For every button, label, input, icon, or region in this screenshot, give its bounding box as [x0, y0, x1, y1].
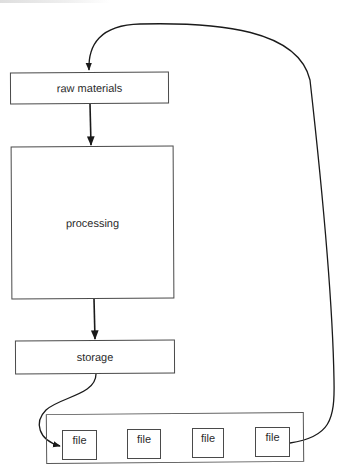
file-box: file [192, 428, 224, 458]
processing-label: processing [66, 216, 119, 228]
storage-box: storage [15, 340, 175, 375]
storage-label: storage [77, 351, 114, 363]
file-label: file [265, 431, 279, 443]
edge-raw-to-processing [90, 104, 91, 145]
file-box: file [127, 429, 161, 459]
file-box: file [62, 430, 97, 460]
raw-materials-box: raw materials [10, 72, 169, 105]
processing-box: processing [11, 146, 175, 300]
file-label: file [137, 433, 151, 445]
raw-materials-label: raw materials [57, 82, 122, 94]
edge-processing-to-storage [94, 299, 95, 339]
file-box: file [255, 427, 290, 457]
file-label: file [201, 432, 215, 444]
file-label: file [72, 434, 86, 446]
